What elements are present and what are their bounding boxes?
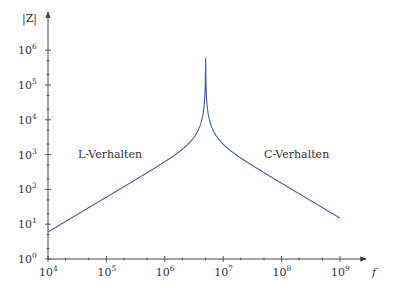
- x-tick-label: 106: [156, 264, 175, 279]
- y-axis-title: |Z|: [22, 12, 37, 26]
- x-tick-label: 109: [331, 264, 350, 279]
- impedance-curve: [48, 58, 340, 232]
- y-tick-label: 104: [18, 112, 37, 127]
- annotation-l-verhalten: L-Verhalten: [78, 148, 142, 161]
- x-axis-title: f: [371, 266, 378, 279]
- x-tick-label: 105: [97, 264, 116, 279]
- y-tick-label: 103: [18, 147, 37, 162]
- x-tick-label: 108: [273, 264, 292, 279]
- impedance-chart: 104105106107108109 100101102103104105106…: [0, 0, 398, 294]
- y-tick-labels: 100101102103104105106: [18, 42, 51, 266]
- axes: [48, 12, 366, 259]
- y-tick-label: 106: [18, 42, 37, 57]
- y-tick-label: 101: [18, 216, 37, 231]
- y-tick-label: 100: [18, 251, 37, 266]
- x-tick-label: 107: [214, 264, 233, 279]
- y-tick-label: 102: [18, 181, 37, 196]
- annotation-c-verhalten: C-Verhalten: [264, 148, 329, 161]
- x-tick-label: 104: [39, 264, 58, 279]
- y-tick-label: 105: [18, 77, 37, 92]
